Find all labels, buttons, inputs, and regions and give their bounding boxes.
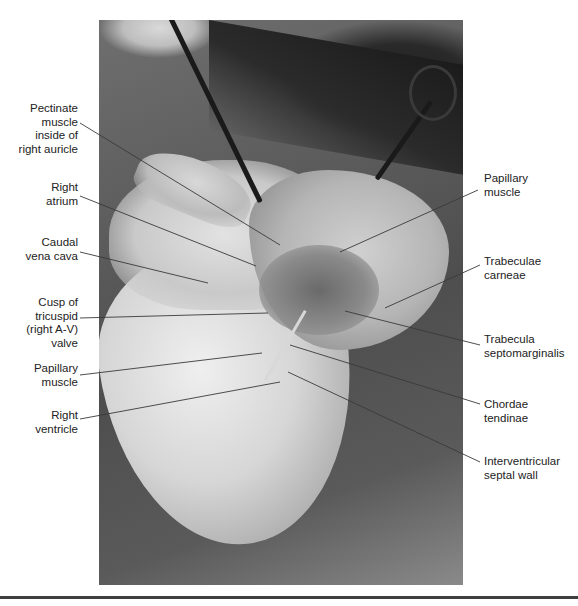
leader-papillary-left: [80, 353, 262, 375]
leader-caudal-vena-cava: [80, 252, 208, 283]
leader-lines: [0, 0, 578, 606]
leader-interventricular-septal-wall: [288, 372, 480, 462]
leader-pectinate: [80, 123, 280, 245]
anatomy-figure: Pectinate muscle inside of right auricle…: [0, 0, 578, 606]
leader-trabeculae-carneae: [385, 265, 480, 308]
leader-right-ventricle: [80, 382, 280, 419]
leader-papillary-right: [340, 190, 478, 252]
leader-right-atrium: [80, 196, 256, 266]
leader-tricuspid: [80, 313, 268, 318]
bottom-rule: [0, 596, 578, 599]
leader-trabecula-septomarginalis: [345, 311, 480, 345]
leader-chordae-tendinae: [290, 345, 480, 404]
